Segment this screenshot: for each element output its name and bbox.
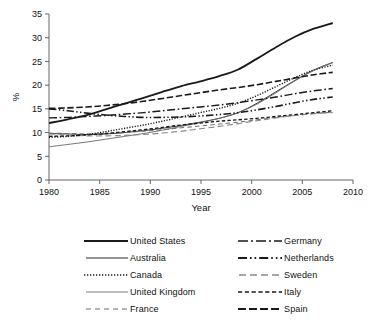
- legend-swatch-france: [82, 300, 130, 317]
- legend-swatch-italy: [236, 283, 284, 300]
- y-tick-label-0: 0: [37, 175, 42, 185]
- y-tick-label-20: 20: [32, 80, 42, 90]
- line-chart-svg: 0510152025303519801985199019952000200520…: [0, 0, 371, 225]
- legend-label-spain: Spain: [284, 300, 354, 317]
- legend-gap: [222, 283, 236, 300]
- y-axis-title: %: [10, 92, 21, 101]
- y-tick-label-35: 35: [32, 9, 42, 19]
- legend-swatch-spain: [236, 300, 284, 317]
- legend-label-germany: Germany: [284, 232, 354, 249]
- x-tick-label-2000: 2000: [242, 187, 262, 197]
- chart-legend: United States Germany Australia: [0, 232, 371, 329]
- legend-label-france: France: [130, 300, 222, 317]
- legend-row: Australia Netherlands: [82, 249, 354, 266]
- legend-gap: [222, 300, 236, 317]
- legend-label-united-kingdom: United Kingdom: [130, 283, 222, 300]
- legend-row: France Spain: [82, 300, 354, 317]
- legend-label-italy: Italy: [284, 283, 354, 300]
- legend-label-canada: Canada: [130, 266, 222, 283]
- legend-row: Canada Sweden: [82, 266, 354, 283]
- chart-container: 0510152025303519801985199019952000200520…: [0, 0, 371, 329]
- series-line-spain: [49, 72, 333, 108]
- legend-swatch-united-kingdom: [82, 283, 130, 300]
- series-line-united-states: [49, 23, 333, 123]
- legend-row: United States Germany: [82, 232, 354, 249]
- legend-swatch-australia: [82, 249, 130, 266]
- legend-swatch-canada: [82, 266, 130, 283]
- y-tick-label-15: 15: [32, 104, 42, 114]
- legend-gap: [222, 266, 236, 283]
- y-tick-label-25: 25: [32, 57, 42, 67]
- y-tick-label-10: 10: [32, 128, 42, 138]
- x-tick-label-1985: 1985: [90, 187, 110, 197]
- legend-swatch-sweden: [236, 266, 284, 283]
- y-tick-label-30: 30: [32, 33, 42, 43]
- x-tick-label-1990: 1990: [140, 187, 160, 197]
- legend-swatch-united-states: [82, 232, 130, 249]
- x-tick-label-2005: 2005: [292, 187, 312, 197]
- legend-row: United Kingdom Italy: [82, 283, 354, 300]
- y-tick-label-5: 5: [37, 152, 42, 162]
- x-tick-label-1995: 1995: [191, 187, 211, 197]
- x-tick-label-1980: 1980: [39, 187, 59, 197]
- legend-label-netherlands: Netherlands: [284, 249, 354, 266]
- legend-label-sweden: Sweden: [284, 266, 354, 283]
- legend-gap: [222, 249, 236, 266]
- legend-swatch-netherlands: [236, 249, 284, 266]
- legend-label-australia: Australia: [130, 249, 222, 266]
- legend-table: United States Germany Australia: [82, 232, 354, 317]
- legend-swatch-germany: [236, 232, 284, 249]
- legend-gap: [222, 232, 236, 249]
- x-axis-title: Year: [191, 202, 210, 213]
- plot-area: 0510152025303519801985199019952000200520…: [0, 0, 371, 225]
- legend-label-united-states: United States: [130, 232, 222, 249]
- x-tick-label-2010: 2010: [343, 187, 363, 197]
